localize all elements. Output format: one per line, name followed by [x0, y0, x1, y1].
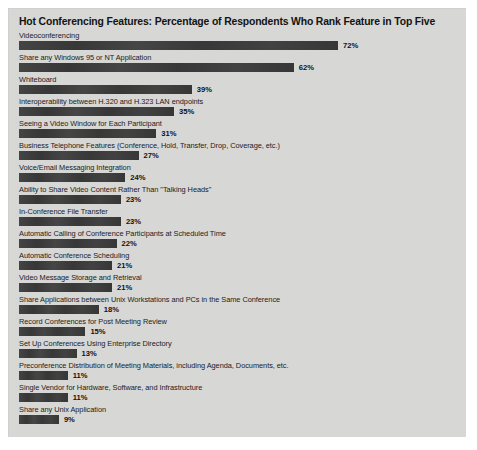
bar-line: 31%	[19, 129, 456, 138]
bar-row: Automatic Conference Scheduling21%	[19, 251, 456, 273]
bar-line: 39%	[19, 85, 456, 94]
bar-category-label: Automatic Conference Scheduling	[19, 251, 456, 260]
bar-line: 15%	[19, 327, 456, 336]
bar-fill	[19, 371, 68, 380]
bar-line: 9%	[19, 415, 456, 424]
bar-category-label: In-Conference File Transfer	[19, 207, 456, 216]
bar-value-label: 11%	[73, 371, 88, 380]
bar-line: 13%	[19, 349, 456, 358]
bar-fill	[19, 195, 121, 204]
bar-value-label: 15%	[90, 327, 105, 336]
bar-row: Interoperability between H.320 and H.323…	[19, 97, 456, 119]
bar-category-label: Share Applications between Unix Workstat…	[19, 295, 456, 304]
bar-row: Share Applications between Unix Workstat…	[19, 295, 456, 317]
bar-row: Preconference Distribution of Meeting Ma…	[19, 361, 456, 383]
bar-fill	[19, 393, 68, 402]
bar-line: 62%	[19, 63, 456, 72]
bar-row: Set Up Conferences Using Enterprise Dire…	[19, 339, 456, 361]
bar-value-label: 21%	[117, 261, 132, 270]
bar-category-label: Automatic Calling of Conference Particip…	[19, 229, 456, 238]
bar-category-label: Share any Unix Application	[19, 405, 456, 414]
bar-row: Videoconferencing72%	[19, 31, 456, 53]
bar-row: Record Conferences for Post Meeting Revi…	[19, 317, 456, 339]
bar-line: 27%	[19, 151, 456, 160]
bar-row: In-Conference File Transfer23%	[19, 207, 456, 229]
bar-category-label: Voice/Email Messaging Integration	[19, 163, 456, 172]
bar-category-label: Video Message Storage and Retrieval	[19, 273, 456, 282]
bar-category-label: Business Telephone Features (Conference,…	[19, 141, 456, 150]
bar-line: 23%	[19, 217, 456, 226]
bar-row: Share any Windows 95 or NT Application62…	[19, 53, 456, 75]
chart-title: Hot Conferencing Features: Percentage of…	[19, 16, 456, 28]
bar-fill	[19, 283, 112, 292]
bar-row: Whiteboard39%	[19, 75, 456, 97]
bar-value-label: 24%	[130, 173, 145, 182]
bar-line: 11%	[19, 371, 456, 380]
bar-row: Automatic Calling of Conference Particip…	[19, 229, 456, 251]
bar-category-label: Single Vendor for Hardware, Software, an…	[19, 383, 456, 392]
bar-value-label: 62%	[299, 63, 314, 72]
bar-chart-plot-area: Videoconferencing72%Share any Windows 95…	[19, 31, 456, 427]
bar-row: Seeing a Video Window for Each Participa…	[19, 119, 456, 141]
bar-fill	[19, 41, 338, 50]
bar-value-label: 72%	[343, 41, 358, 50]
bar-category-label: Share any Windows 95 or NT Application	[19, 53, 456, 62]
bar-fill	[19, 349, 77, 358]
bar-category-label: Seeing a Video Window for Each Participa…	[19, 119, 456, 128]
bar-category-label: Set Up Conferences Using Enterprise Dire…	[19, 339, 456, 348]
bar-category-label: Videoconferencing	[19, 31, 456, 40]
chart-panel: Hot Conferencing Features: Percentage of…	[8, 8, 466, 437]
bar-fill	[19, 151, 139, 160]
bar-value-label: 39%	[197, 85, 212, 94]
bar-row: Business Telephone Features (Conference,…	[19, 141, 456, 163]
bar-value-label: 11%	[73, 393, 88, 402]
bar-value-label: 23%	[126, 195, 141, 204]
bar-row: Voice/Email Messaging Integration24%	[19, 163, 456, 185]
bar-category-label: Ability to Share Video Content Rather Th…	[19, 185, 456, 194]
bar-line: 21%	[19, 283, 456, 292]
bar-line: 18%	[19, 305, 456, 314]
bar-value-label: 18%	[104, 305, 119, 314]
bar-category-label: Preconference Distribution of Meeting Ma…	[19, 361, 456, 370]
bar-fill	[19, 85, 192, 94]
bar-value-label: 22%	[122, 239, 137, 248]
bar-row: Video Message Storage and Retrieval21%	[19, 273, 456, 295]
bar-category-label: Interoperability between H.320 and H.323…	[19, 97, 456, 106]
bar-line: 24%	[19, 173, 456, 182]
bar-value-label: 27%	[144, 151, 159, 160]
bar-row: Share any Unix Application9%	[19, 405, 456, 427]
bar-fill	[19, 415, 59, 424]
bar-row: Ability to Share Video Content Rather Th…	[19, 185, 456, 207]
bar-value-label: 35%	[179, 107, 194, 116]
bar-fill	[19, 107, 174, 116]
bar-value-label: 31%	[161, 129, 176, 138]
bar-value-label: 21%	[117, 283, 132, 292]
bar-fill	[19, 129, 156, 138]
bar-category-label: Whiteboard	[19, 75, 456, 84]
bar-fill	[19, 63, 294, 72]
bar-fill	[19, 261, 112, 270]
bar-value-label: 13%	[82, 349, 97, 358]
bar-line: 72%	[19, 41, 456, 50]
bar-line: 21%	[19, 261, 456, 270]
bar-fill	[19, 217, 121, 226]
bar-line: 11%	[19, 393, 456, 402]
bar-value-label: 9%	[64, 415, 75, 424]
bar-line: 23%	[19, 195, 456, 204]
bar-fill	[19, 173, 125, 182]
bar-fill	[19, 305, 99, 314]
bar-row: Single Vendor for Hardware, Software, an…	[19, 383, 456, 405]
bar-line: 35%	[19, 107, 456, 116]
bar-fill	[19, 327, 85, 336]
bar-value-label: 23%	[126, 217, 141, 226]
bar-fill	[19, 239, 117, 248]
bar-category-label: Record Conferences for Post Meeting Revi…	[19, 317, 456, 326]
bar-line: 22%	[19, 239, 456, 248]
